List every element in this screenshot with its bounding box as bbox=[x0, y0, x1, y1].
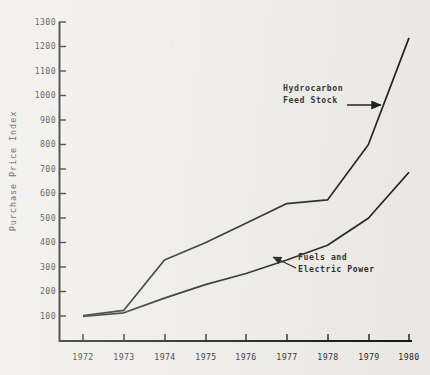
chart-plot-area bbox=[0, 0, 430, 375]
x-axis-ticks bbox=[83, 334, 409, 341]
chart-page: Purchase Price Index 1300 1200 1100 1000… bbox=[0, 0, 430, 375]
series-line-fuels-and-electric-power bbox=[83, 172, 409, 316]
axis-lines bbox=[59, 22, 412, 342]
